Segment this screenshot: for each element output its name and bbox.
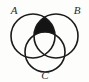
venn-diagram-canvas: A B C xyxy=(0,0,89,82)
venn-diagram-figure: A B C xyxy=(0,0,89,82)
set-label-c: C xyxy=(41,69,49,81)
set-label-b: B xyxy=(74,4,81,16)
set-label-a: A xyxy=(10,4,18,16)
